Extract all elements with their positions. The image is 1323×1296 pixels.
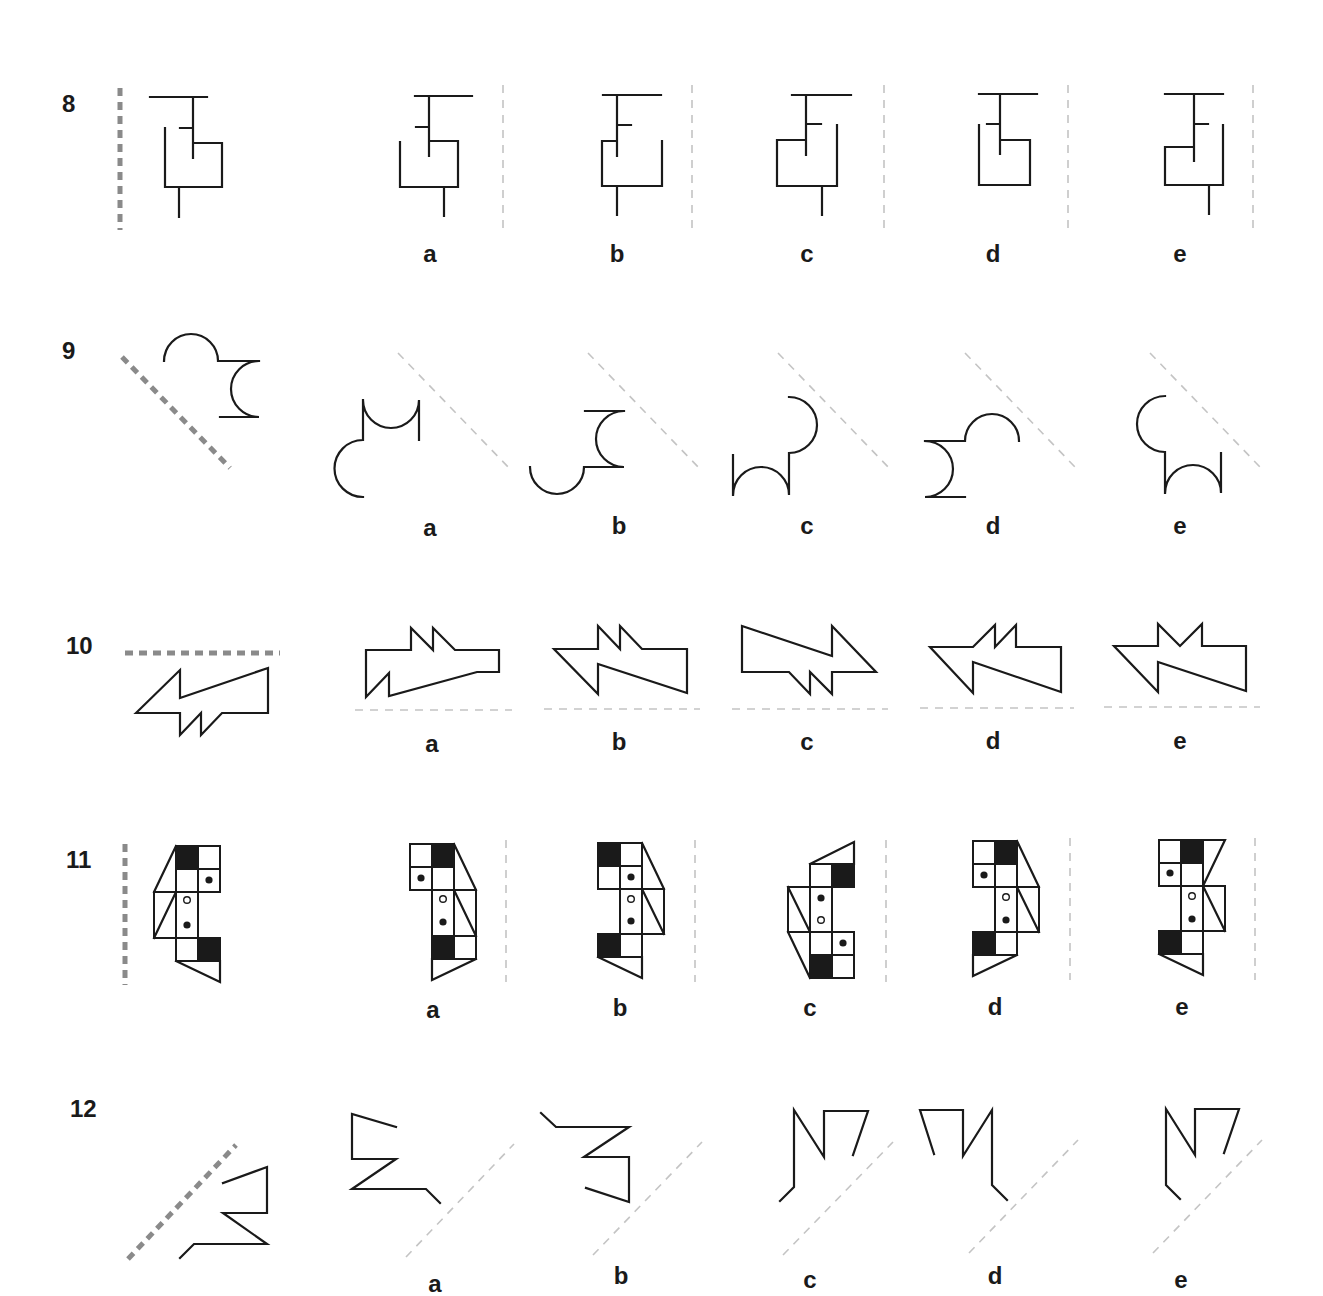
q8-option-a-figure[interactable]	[400, 85, 503, 228]
q11-question-figure	[125, 844, 220, 985]
q12-option-e-figure[interactable]	[1153, 1109, 1262, 1253]
q8-option-e-figure[interactable]	[1165, 85, 1253, 228]
q8-option-c-figure[interactable]	[777, 85, 884, 228]
q10-question-figure	[125, 653, 280, 735]
q11-option-a-figure[interactable]	[410, 840, 506, 982]
q12-option-b-figure[interactable]	[541, 1113, 702, 1255]
q9-question-figure	[122, 334, 259, 468]
q10-option-b-figure[interactable]	[544, 626, 700, 709]
q9-option-a-figure[interactable]	[335, 353, 511, 497]
mirror-line	[128, 1145, 236, 1259]
q12-option-a-figure[interactable]	[352, 1114, 514, 1257]
q9-option-c-figure[interactable]	[733, 353, 890, 495]
q12-option-c-figure[interactable]	[780, 1110, 893, 1255]
q8-option-b-figure[interactable]	[602, 85, 692, 228]
q12-option-d-figure[interactable]	[920, 1110, 1078, 1253]
q9-option-b-figure[interactable]	[530, 353, 700, 494]
q8-option-d-figure[interactable]	[979, 85, 1068, 228]
q12-question-figure	[128, 1145, 267, 1259]
q9-option-e-figure[interactable]	[1137, 353, 1260, 493]
q8-question-figure	[120, 88, 222, 230]
mirror-line	[122, 357, 230, 468]
q10-option-c-figure[interactable]	[732, 626, 888, 709]
q10-option-a-figure[interactable]	[355, 628, 512, 710]
q9-option-d-figure[interactable]	[925, 353, 1075, 497]
q11-option-b-figure[interactable]	[598, 840, 695, 982]
q11-option-e-figure[interactable]	[1159, 838, 1255, 980]
q10-option-e-figure[interactable]	[1104, 624, 1260, 707]
q11-option-d-figure[interactable]	[973, 838, 1070, 980]
q10-option-d-figure[interactable]	[920, 625, 1074, 708]
q11-option-c-figure[interactable]	[788, 840, 886, 982]
